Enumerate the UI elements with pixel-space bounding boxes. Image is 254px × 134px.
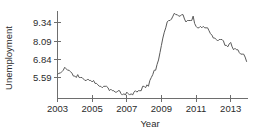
x-axis: 200320052007200920112013: [47, 95, 248, 115]
y-tick-label: 9.34: [33, 17, 52, 28]
unemployment-line-chart: 5.596.848.099.34 20032005200720092011201…: [0, 0, 254, 134]
data-series-group: [58, 13, 247, 95]
y-axis: 5.596.848.099.34: [33, 11, 61, 98]
y-tick-label: 6.84: [33, 54, 52, 65]
x-axis-ticks: 200320052007200920112013: [47, 95, 241, 115]
x-tick-label: 2009: [151, 103, 172, 114]
y-tick-label: 5.59: [33, 72, 52, 83]
x-axis-title: Year: [140, 118, 159, 129]
x-tick-label: 2007: [116, 103, 137, 114]
y-axis-ticks: 5.596.848.099.34: [33, 17, 61, 83]
x-tick-label: 2013: [220, 103, 241, 114]
x-tick-label: 2003: [47, 103, 68, 114]
y-axis-title: Unemployment: [3, 26, 14, 90]
chart-plot-area: 5.596.848.099.34 20032005200720092011201…: [0, 0, 254, 134]
x-tick-label: 2011: [186, 103, 206, 114]
x-tick-label: 2005: [82, 103, 103, 114]
y-tick-label: 8.09: [33, 36, 52, 47]
unemployment-data-line: [58, 13, 247, 95]
